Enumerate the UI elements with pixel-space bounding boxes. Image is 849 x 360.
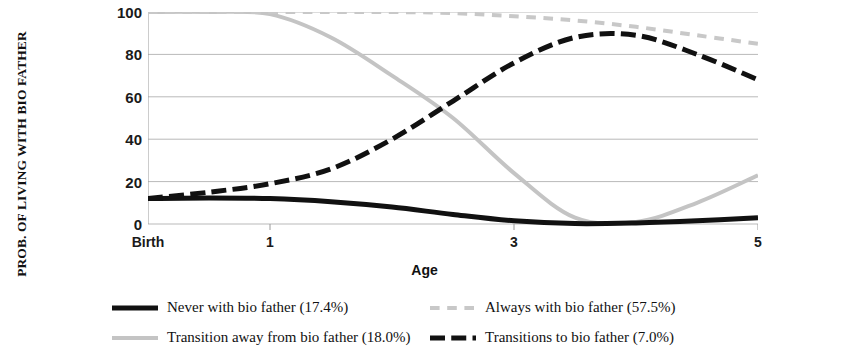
x-axis-tick-label: 1 <box>266 234 274 250</box>
legend-label: Never with bio father (17.4%) <box>167 300 348 315</box>
legend-key-icon <box>112 332 158 344</box>
x-axis-tick-label: Birth <box>132 234 165 250</box>
legend-label: Transitions to bio father (7.0%) <box>485 330 674 345</box>
x-axis-title: Age <box>0 262 849 278</box>
chart-figure: PROB. OF LIVING WITH BIO FATHER 10080604… <box>0 0 849 360</box>
x-axis-tick-labels: Birth135 <box>0 234 849 256</box>
y-axis-tick-label: 20 <box>100 175 142 190</box>
legend-key-icon <box>430 332 476 344</box>
y-axis-tick-label: 100 <box>100 5 142 20</box>
legend-key-icon <box>430 302 476 314</box>
legend-label: Always with bio father (57.5%) <box>485 300 675 315</box>
legend-item[interactable]: Transition away from bio father (18.0%) <box>112 330 411 345</box>
series-line <box>148 198 758 224</box>
chart-canvas <box>148 12 758 238</box>
legend-key-icon <box>112 302 158 314</box>
y-axis-title: PROB. OF LIVING WITH BIO FATHER <box>14 4 30 304</box>
x-axis-tick-label: 5 <box>754 234 762 250</box>
legend-item[interactable]: Always with bio father (57.5%) <box>430 300 675 315</box>
y-axis-tick-label: 40 <box>100 132 142 147</box>
plot-area <box>148 12 758 224</box>
legend-item[interactable]: Transitions to bio father (7.0%) <box>430 330 674 345</box>
y-axis-tick-label: 80 <box>100 47 142 62</box>
chart-legend: Never with bio father (17.4%)Always with… <box>112 300 772 358</box>
y-axis-tick-label: 0 <box>100 217 142 232</box>
legend-label: Transition away from bio father (18.0%) <box>167 330 411 345</box>
series-line <box>148 12 758 44</box>
x-axis-tick-label: 3 <box>510 234 518 250</box>
y-axis-tick-label: 60 <box>100 90 142 105</box>
legend-item[interactable]: Never with bio father (17.4%) <box>112 300 348 315</box>
